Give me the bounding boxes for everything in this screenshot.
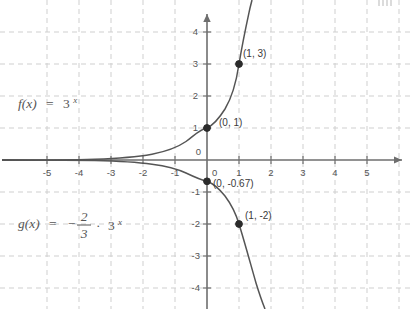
x-tick-label-2: 2 bbox=[268, 167, 273, 178]
g-equation-suffix: · 3 x bbox=[96, 217, 122, 233]
f-equation-exponent: x bbox=[72, 95, 77, 105]
g-equation-minus: − bbox=[68, 216, 76, 231]
axes bbox=[2, 14, 402, 309]
y-axis-arrow-icon bbox=[203, 14, 210, 22]
f-equation-equals: = bbox=[46, 96, 54, 111]
label-point-f-one-three: (1, 3) bbox=[243, 48, 266, 59]
x-tick-label-1: 1 bbox=[236, 167, 241, 178]
curve-f-exponential bbox=[2, 0, 252, 160]
y-tick-label-neg1: -1 bbox=[192, 186, 200, 197]
x-tick-label-0: 0 bbox=[212, 167, 217, 178]
x-tick-label-3: 3 bbox=[300, 167, 305, 178]
cropped-artifact bbox=[378, 0, 392, 6]
g-equation-fraction-numerator: 2 bbox=[81, 209, 88, 224]
f-equation-label: f(x) = 3 x bbox=[18, 95, 77, 111]
point-g-one-negtwo bbox=[236, 221, 243, 228]
vertical-gridlines bbox=[47, 0, 399, 309]
y-tick-label-neg3: -3 bbox=[192, 250, 200, 261]
point-labels: (1, 3) (0, 1) (0, -0.67) (1, -2) bbox=[213, 48, 272, 221]
point-f-one-three bbox=[236, 61, 243, 68]
x-tick-label-neg3: -3 bbox=[107, 167, 115, 178]
label-point-g-y-intercept: (0, -0.67) bbox=[213, 178, 254, 189]
g-equation-base: 3 bbox=[108, 218, 115, 233]
x-axis-arrow-icon bbox=[394, 157, 402, 164]
g-equation-fraction-denominator: 3 bbox=[80, 226, 88, 241]
x-tick-label-neg2: -2 bbox=[139, 167, 147, 178]
coordinate-plane: -5 -4 -3 -2 -1 0 1 2 3 4 5 4 3 2 1 0 -1 … bbox=[0, 0, 414, 309]
point-f-y-intercept bbox=[204, 125, 211, 132]
f-equation-base: 3 bbox=[63, 96, 70, 111]
g-equation-equals: = bbox=[49, 216, 57, 231]
y-tick-label-0: 0 bbox=[196, 146, 201, 157]
f-equation-function-name: f(x) bbox=[18, 96, 37, 111]
y-tick-label-4: 4 bbox=[193, 26, 198, 37]
g-equation-function-name: g(x) bbox=[18, 216, 40, 231]
g-equation-multiply-dot: · bbox=[96, 218, 101, 233]
label-point-g-one-negtwo: (1, -2) bbox=[245, 210, 272, 221]
y-tick-label-neg2: -2 bbox=[192, 218, 200, 229]
exponential-function-graph: -5 -4 -3 -2 -1 0 1 2 3 4 5 4 3 2 1 0 -1 … bbox=[0, 0, 414, 309]
x-tick-label-5: 5 bbox=[364, 167, 369, 178]
x-tick-label-neg5: -5 bbox=[43, 167, 51, 178]
point-g-y-intercept bbox=[204, 178, 211, 185]
y-tick-label-1: 1 bbox=[193, 122, 198, 133]
g-equation-label: g(x) = − 2 3 · 3 x bbox=[18, 209, 122, 241]
f-equation-text: f(x) = 3 x bbox=[18, 95, 77, 111]
label-point-f-y-intercept: (0, 1) bbox=[219, 117, 242, 128]
y-tick-label-neg4: -4 bbox=[192, 282, 200, 293]
x-tick-label-4: 4 bbox=[332, 167, 337, 178]
y-tick-label-3: 3 bbox=[193, 58, 198, 69]
plotted-points bbox=[204, 61, 243, 228]
y-tick-label-2: 2 bbox=[193, 90, 198, 101]
g-equation-exponent: x bbox=[117, 217, 122, 227]
x-tick-label-neg4: -4 bbox=[75, 167, 83, 178]
